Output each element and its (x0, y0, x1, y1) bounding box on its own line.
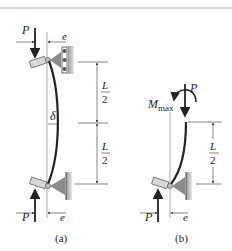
pin-b (167, 183, 172, 188)
eccentric-column-diagram: P P e e δ L 2 L 2 (a) (0, 0, 232, 251)
top-roller-support (50, 46, 74, 74)
column-b (171, 122, 186, 184)
dim-num-b: L (209, 140, 216, 152)
panel-a-caption: (a) (55, 232, 68, 245)
top-bracket (29, 56, 46, 68)
panel-a: P P e e δ L 2 L 2 (a) (16, 23, 110, 245)
top-load-label: P (21, 23, 30, 37)
dim-upper-den: 2 (102, 93, 108, 105)
deflection-label: δ (50, 109, 56, 123)
bottom-pin (45, 183, 50, 188)
ecc-top-label: e (62, 30, 67, 42)
panel-b: P Mmax P e L 2 (b) (140, 81, 222, 245)
ecc-label-b: e (183, 211, 188, 223)
bottom-pin-support (50, 172, 72, 200)
dim-lower-den: 2 (102, 154, 108, 166)
moment-label: Mmax (147, 97, 174, 113)
bracket-b (152, 177, 169, 189)
ecc-bottom-label: e (60, 211, 65, 223)
dim-upper-num: L (101, 79, 108, 91)
bottom-load-label: P (21, 210, 30, 224)
top-load-label-b: P (189, 81, 198, 95)
dim-den-b: 2 (210, 154, 216, 166)
bottom-load-label-b: P (144, 210, 153, 224)
bottom-bracket (30, 177, 47, 189)
dim-lower-num: L (101, 140, 108, 152)
panel-b-caption: (b) (175, 232, 188, 245)
